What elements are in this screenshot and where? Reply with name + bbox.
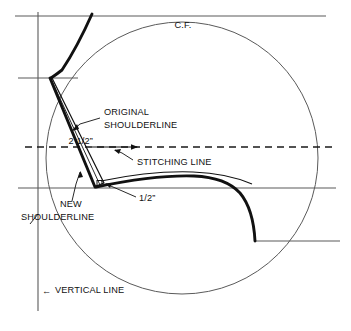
side-seam-curve <box>96 176 255 241</box>
vertical-line-arrow-glyph: ← <box>42 286 51 296</box>
neckline-curve <box>51 14 92 78</box>
new-shoulderline-stroke <box>50 78 95 187</box>
original-shoulderline-label-line1: ORIGINAL <box>104 107 149 117</box>
new-shoulderline-label-line1: NEW <box>60 199 82 209</box>
center-front-label: C.F. <box>175 20 192 30</box>
shoulder-dimension-arrowhead <box>131 144 138 150</box>
stitching-line-arrowhead <box>114 149 121 154</box>
new-shoulderline-label-line2: SHOULDERLINE <box>21 212 94 222</box>
pattern-diagram: C.F. ORIGINAL SHOULDERLINE 2 1/2” STITCH… <box>0 0 351 331</box>
stitching-line-label: STITCHING LINE <box>137 157 212 167</box>
text-labels: C.F. ORIGINAL SHOULDERLINE 2 1/2” STITCH… <box>21 20 212 296</box>
vertical-line-label: VERTICAL LINE <box>55 285 124 295</box>
shoulder-measurement-label: 2 1/2” <box>69 136 93 146</box>
original-shoulderline-label-line2: SHOULDERLINE <box>104 120 177 130</box>
diagram-canvas: C.F. ORIGINAL SHOULDERLINE 2 1/2” STITCH… <box>0 0 351 331</box>
original-shoulderline-stroke <box>52 78 104 183</box>
shoulder-wedge-inner-line <box>51 79 100 185</box>
underarm-measurement-label: 1/2” <box>139 193 155 203</box>
